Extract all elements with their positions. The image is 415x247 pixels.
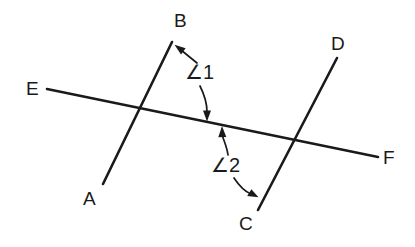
point-label-a: A <box>83 189 96 208</box>
line-ef <box>47 89 378 157</box>
point-label-e: E <box>26 79 39 98</box>
point-label-b: B <box>174 11 187 30</box>
geometry-diagram: E B D F A C ∠1 ∠2 <box>0 0 415 247</box>
point-label-f: F <box>383 148 395 167</box>
diagram-canvas <box>0 0 415 247</box>
point-label-c: C <box>239 214 253 233</box>
arrowhead-down-icon <box>203 111 211 122</box>
arrowhead-up-icon <box>218 126 226 137</box>
angle-2-leader-to-line-cd <box>234 178 259 197</box>
angle-label-2: ∠2 <box>211 155 240 175</box>
angle-label-1: ∠1 <box>185 62 214 82</box>
angle-2-leader-to-line-ef <box>218 126 228 155</box>
angle-1-leader-to-line-ef <box>200 86 211 122</box>
point-label-d: D <box>331 34 345 53</box>
